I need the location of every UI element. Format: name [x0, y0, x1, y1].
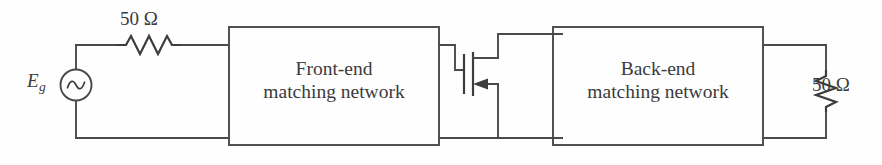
back-end-box-label-line2: matching network [560, 80, 756, 103]
front-end-box-label: Front-end matching network [236, 57, 432, 103]
fet-symbol [464, 34, 562, 138]
source-label-subscript: g [39, 79, 46, 94]
resistor-zigzag-horizontal [116, 36, 182, 54]
front-end-box-label-line2: matching network [236, 80, 432, 103]
source-label: Eg [27, 70, 46, 95]
wire-fet-drain [473, 34, 562, 58]
fet-source-arrow-icon [473, 79, 488, 90]
source-branch-wires [76, 45, 229, 138]
ac-source-symbol [61, 70, 92, 101]
series-resistor-symbol [116, 36, 229, 54]
front-to-gate-wires [439, 45, 464, 70]
load-resistor-label: 50 Ω [812, 74, 850, 96]
wire-fet-source [488, 84, 498, 138]
figure-canvas: Eg 50 Ω Front-end matching network Back-… [0, 0, 882, 165]
back-end-box-label-line1: Back-end [560, 57, 756, 80]
series-resistor-label: 50 Ω [120, 8, 158, 30]
back-end-box-label: Back-end matching network [560, 57, 756, 103]
wire-back-to-load-top [763, 45, 826, 70]
wire-back-to-load-bottom [763, 112, 826, 138]
source-label-main: E [27, 70, 39, 91]
front-end-box-label-line1: Front-end [236, 57, 432, 80]
wire-front-to-gate [439, 45, 464, 70]
